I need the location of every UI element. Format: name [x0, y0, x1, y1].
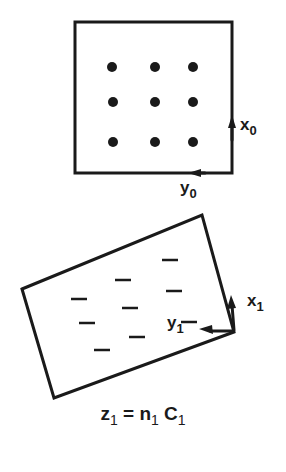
equation-n: n — [139, 403, 151, 424]
coordinate-frames-diagram: x0 y0 x1 y1 — [0, 0, 286, 472]
equation-c-subscript: 1 — [178, 412, 186, 428]
grid-dot — [108, 97, 118, 107]
y0-label: y0 — [180, 178, 197, 201]
grid-dot — [188, 97, 198, 107]
y1-axis-arrow-icon — [199, 325, 232, 334]
frame-1: x1 y1 — [22, 215, 264, 398]
grid-dot — [150, 62, 160, 72]
frame-0-dot-grid — [107, 62, 198, 147]
x0-label: x0 — [240, 115, 257, 138]
equation-lhs-subscript: 1 — [110, 412, 118, 428]
x0-axis-arrow-icon — [228, 115, 236, 140]
y0-axis-arrow-icon — [188, 169, 205, 177]
grid-dot — [150, 97, 160, 107]
grid-dot — [188, 62, 198, 72]
y1-label: y1 — [167, 313, 184, 336]
x1-label: x1 — [247, 291, 264, 314]
grid-dot — [108, 137, 118, 147]
grid-dot — [188, 137, 198, 147]
frame-0: x0 y0 — [75, 22, 257, 201]
grid-dot — [150, 137, 160, 147]
frame-1-dash-marks — [71, 260, 197, 350]
grid-dot — [107, 62, 117, 72]
equation-lhs: z — [100, 403, 110, 424]
equation: z1 = n1 C1 — [0, 403, 286, 428]
frame-1-rotated-rectangle — [22, 215, 234, 398]
equation-c: C — [164, 403, 178, 424]
equation-n-subscript: 1 — [151, 412, 159, 428]
equation-equals: = — [123, 403, 134, 424]
